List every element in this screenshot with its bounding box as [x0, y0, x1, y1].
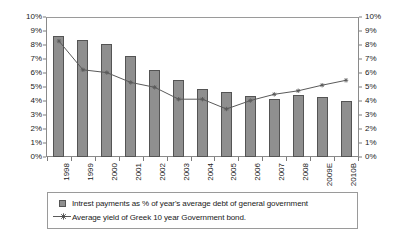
y-tick-label-right: 6%: [365, 69, 377, 77]
y-tick-label-right: 10%: [365, 13, 381, 21]
bar-2002: [149, 70, 160, 157]
y-tick-label-right: 4%: [365, 97, 377, 105]
x-axis-tick: [262, 157, 263, 161]
x-axis-tick: [334, 157, 335, 161]
bar-2007: [269, 99, 280, 157]
bar-2005: [221, 92, 232, 158]
y-tick-label-right: 5%: [365, 83, 377, 91]
y-tick-label-right: 7%: [365, 55, 377, 63]
x-axis-label-2010B: 2010B: [350, 163, 358, 186]
legend-item-line-series: Average yield of Greek 10 year Governmen…: [52, 210, 353, 224]
x-axis-tick: [71, 157, 72, 161]
y-tick-label-left: 5%: [30, 83, 42, 91]
x-axis-tick: [214, 157, 215, 161]
bar-1999: [77, 40, 88, 157]
x-axis-label-2003: 2003: [183, 163, 191, 181]
y-tick-label-left: 3%: [30, 111, 42, 119]
bar-2009E: [317, 97, 328, 157]
y-tick-label-left: 7%: [30, 55, 42, 63]
x-axis-label-2004: 2004: [207, 163, 215, 181]
plot-area: [47, 18, 358, 157]
axis-tick: [359, 73, 362, 74]
x-axis-tick: [358, 157, 359, 161]
x-axis-tick: [143, 157, 144, 161]
axis-tick: [359, 17, 362, 18]
y-tick-label-left: 8%: [30, 41, 42, 49]
axis-tick: [43, 87, 46, 88]
axis-tick: [43, 17, 46, 18]
axis-tick: [359, 129, 362, 130]
x-axis-label-1999: 1999: [87, 163, 95, 181]
bar-2006: [245, 96, 256, 157]
star-marker-icon: [60, 213, 67, 220]
x-axis-label-2005: 2005: [230, 163, 238, 181]
legend-label-bar-series: Intrest payments as % of year's average …: [72, 199, 308, 208]
bar-2010B: [341, 101, 352, 157]
y-tick-label-left: 10%: [26, 13, 42, 21]
axis-tick: [359, 157, 362, 158]
chart-legend: Intrest payments as % of year's average …: [47, 192, 358, 229]
x-axis-tick: [238, 157, 239, 161]
bar-2000: [101, 44, 112, 157]
y-tick-label-left: 6%: [30, 69, 42, 77]
x-axis-label-2002: 2002: [159, 163, 167, 181]
x-axis-label-2007: 2007: [278, 163, 286, 181]
axis-tick: [359, 45, 362, 46]
axis-tick: [359, 31, 362, 32]
y-tick-label-left: 9%: [30, 27, 42, 35]
y-axis-left: 10%9%8%7%6%5%4%3%2%1%0%: [2, 17, 42, 157]
legend-line-marker-icon: [52, 213, 72, 221]
x-axis-label-2001: 2001: [135, 163, 143, 181]
y-tick-label-left: 1%: [30, 139, 42, 147]
y-tick-label-left: 2%: [30, 125, 42, 133]
legend-bar-swatch-icon: [52, 200, 72, 207]
x-axis-label-1998: 1998: [63, 163, 71, 181]
y-tick-label-left: 4%: [30, 97, 42, 105]
x-axis-tick: [167, 157, 168, 161]
x-axis-tick: [310, 157, 311, 161]
axis-tick: [359, 101, 362, 102]
axis-tick: [43, 31, 46, 32]
x-axis-tick: [191, 157, 192, 161]
x-axis-tick: [95, 157, 96, 161]
bar-2003: [173, 80, 184, 157]
y-tick-label-right: 2%: [365, 125, 377, 133]
axis-tick: [359, 115, 362, 116]
axis-tick: [43, 101, 46, 102]
y-axis-right: 10%9%8%7%6%5%4%3%2%1%0%: [365, 17, 404, 157]
bar-series-layer: [47, 18, 358, 157]
x-axis-label-2009E: 2009E: [326, 163, 334, 186]
y-tick-label-right: 0%: [365, 153, 377, 161]
y-tick-label-right: 3%: [365, 111, 377, 119]
y-tick-label-left: 0%: [30, 153, 42, 161]
x-axis-tick: [119, 157, 120, 161]
x-axis-tick: [286, 157, 287, 161]
axis-tick: [359, 59, 362, 60]
chart-container: 10%9%8%7%6%5%4%3%2%1%0% 10%9%8%7%6%5%4%3…: [0, 0, 404, 232]
bar-2001: [125, 56, 136, 157]
x-axis-label-2008: 2008: [302, 163, 310, 181]
x-axis-tick: [47, 157, 48, 161]
legend-item-bar-series: Intrest payments as % of year's average …: [52, 196, 353, 210]
axis-tick: [43, 73, 46, 74]
axis-tick: [43, 129, 46, 130]
bar-2008: [293, 95, 304, 157]
axis-tick: [43, 59, 46, 60]
axis-tick: [43, 157, 46, 158]
axis-tick: [43, 143, 46, 144]
y-tick-label-right: 1%: [365, 139, 377, 147]
x-axis-label-2000: 2000: [111, 163, 119, 181]
y-tick-label-right: 9%: [365, 27, 377, 35]
axis-tick: [43, 45, 46, 46]
axis-tick: [359, 143, 362, 144]
axis-tick: [43, 115, 46, 116]
legend-label-line-series: Average yield of Greek 10 year Governmen…: [72, 213, 246, 222]
bar-2004: [197, 89, 208, 157]
y-tick-label-right: 8%: [365, 41, 377, 49]
axis-tick: [359, 87, 362, 88]
bar-1998: [53, 36, 64, 157]
x-axis-label-2006: 2006: [254, 163, 262, 181]
